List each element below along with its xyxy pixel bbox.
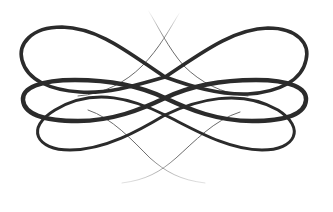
flourish-ornament-graphic [0,0,333,212]
hairline-strands-bottom [88,110,240,183]
bottom-loop [38,97,295,150]
